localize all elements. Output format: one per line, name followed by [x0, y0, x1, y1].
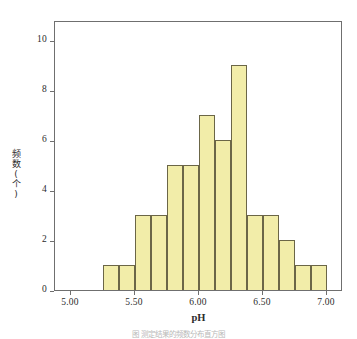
histogram-bar [263, 215, 279, 290]
x-tick-mark [262, 291, 263, 295]
y-tick-label: 6 [42, 134, 47, 144]
y-axis-title-char: 频 [9, 149, 23, 159]
x-tick-label: 5.50 [116, 297, 152, 308]
histogram-bar [103, 265, 119, 290]
histogram-bar [231, 65, 247, 290]
y-tick-label: 4 [42, 184, 47, 194]
histogram-bar [135, 215, 151, 290]
histogram-bar [119, 265, 135, 290]
x-tick-mark [198, 291, 199, 295]
plot-area [54, 21, 342, 291]
y-axis: 0246810 频数(个) [0, 21, 54, 292]
histogram-bar [151, 215, 167, 290]
histogram-bar [311, 265, 327, 290]
y-axis-title: 频数(个) [9, 149, 23, 199]
x-axis-title: pH [54, 312, 343, 324]
y-tick-label: 8 [42, 84, 47, 94]
x-tick-label: 5.00 [52, 297, 88, 308]
histogram-bar [215, 140, 231, 290]
y-tick-label: 10 [37, 34, 47, 44]
figure-caption: 图 测定结果的频数分布直方图 [0, 330, 357, 339]
bars-layer [55, 22, 341, 290]
histogram-bar [183, 165, 199, 290]
y-axis-title-char: 数 [9, 159, 23, 169]
y-axis-title-char: ( [9, 169, 23, 179]
x-tick-label: 6.50 [244, 297, 280, 308]
histogram-bar [247, 215, 263, 290]
histogram-bar [167, 165, 183, 290]
y-tick-label: 2 [42, 234, 47, 244]
x-tick-mark [134, 291, 135, 295]
histogram-bar [295, 265, 311, 290]
x-tick-label: 6.00 [180, 297, 216, 308]
x-tick-mark [326, 291, 327, 295]
histogram-bar [199, 115, 215, 290]
x-tick-mark [70, 291, 71, 295]
y-axis-title-char: ) [9, 189, 23, 199]
y-tick-label: 0 [42, 284, 47, 294]
histogram-bar [279, 240, 295, 290]
y-axis-title-char: 个 [9, 179, 23, 189]
x-tick-label: 7.00 [308, 297, 344, 308]
